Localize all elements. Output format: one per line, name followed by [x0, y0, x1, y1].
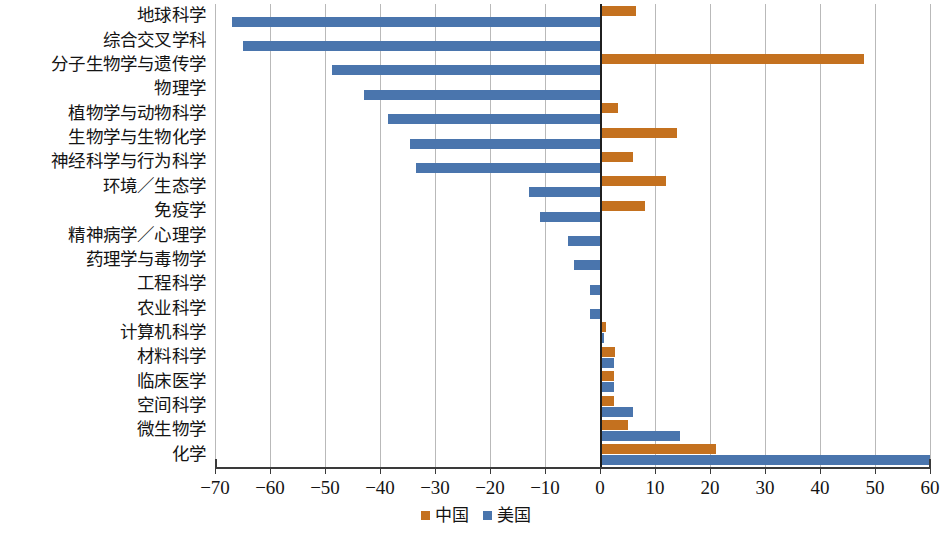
x-tick-label: 0 — [595, 477, 605, 499]
bar-row — [215, 199, 930, 223]
bar-row — [215, 296, 930, 320]
x-tick-mark — [215, 467, 216, 474]
legend-label: 中国 — [435, 507, 469, 524]
x-tick-label: 50 — [866, 477, 885, 499]
category-label: 工程科学 — [137, 275, 206, 293]
x-tick-label: −70 — [200, 477, 230, 499]
x-tick-label: −30 — [420, 477, 450, 499]
x-tick-label: 10 — [646, 477, 665, 499]
x-tick-mark — [820, 467, 821, 474]
category-label: 农业科学 — [137, 300, 206, 318]
bar-row — [215, 28, 930, 52]
x-tick-mark — [765, 467, 766, 474]
bar-row — [215, 150, 930, 174]
x-tick-mark — [875, 467, 876, 474]
bar-cn — [600, 103, 618, 113]
category-label: 微生物学 — [137, 421, 206, 439]
bar-us — [600, 382, 614, 392]
bar-us — [568, 236, 600, 246]
chart-legend: 中国美国 — [0, 507, 951, 524]
bar-row — [215, 394, 930, 418]
grid-line — [930, 4, 931, 467]
category-label: 化学 — [172, 446, 206, 464]
plot-area — [215, 4, 930, 467]
category-label: 神经科学与行为科学 — [51, 153, 206, 171]
x-tick-mark — [710, 467, 711, 474]
bar-row — [215, 443, 930, 467]
category-label: 材料科学 — [137, 348, 206, 366]
x-tick-mark — [270, 467, 271, 474]
bar-us — [364, 90, 601, 100]
category-label: 生物学与生物化学 — [68, 129, 206, 147]
bar-row — [215, 175, 930, 199]
x-tick-label: 60 — [921, 477, 940, 499]
category-label: 精神病学／心理学 — [68, 227, 206, 245]
bar-row — [215, 321, 930, 345]
horizontal-bar-chart: 地球科学综合交叉学科分子生物学与遗传学物理学植物学与动物科学生物学与生物化学神经… — [0, 0, 951, 533]
bar-row — [215, 370, 930, 394]
bar-us — [600, 455, 930, 465]
category-label: 植物学与动物科学 — [68, 105, 206, 123]
bar-cn — [600, 152, 633, 162]
bar-us — [600, 407, 633, 417]
x-tick-mark — [380, 467, 381, 474]
category-label: 药理学与毒物学 — [86, 251, 206, 269]
bar-row — [215, 77, 930, 101]
x-tick-label: −50 — [310, 477, 340, 499]
x-tick-mark — [600, 467, 601, 474]
legend-swatch-us — [483, 511, 492, 520]
x-tick-mark — [655, 467, 656, 474]
bar-us — [590, 309, 600, 319]
category-label: 免疫学 — [154, 202, 206, 220]
x-axis-right-cap — [929, 459, 931, 467]
x-axis-line — [215, 467, 931, 469]
x-tick-mark — [325, 467, 326, 474]
bar-us — [590, 285, 600, 295]
bar-us — [600, 358, 614, 368]
x-tick-mark — [490, 467, 491, 474]
bar-us — [574, 260, 600, 270]
bar-cn — [600, 371, 614, 381]
bar-row — [215, 272, 930, 296]
bar-cn — [600, 6, 636, 16]
bar-row — [215, 345, 930, 369]
x-tick-label: −60 — [255, 477, 285, 499]
bar-cn — [600, 201, 645, 211]
bar-us — [243, 41, 601, 51]
bar-us — [388, 114, 600, 124]
category-label: 临床医学 — [137, 373, 206, 391]
x-tick-label: 30 — [756, 477, 775, 499]
x-tick-mark — [930, 467, 931, 474]
bar-us — [232, 17, 601, 27]
category-label: 地球科学 — [137, 7, 206, 25]
bar-us — [410, 139, 600, 149]
x-tick-label: −10 — [530, 477, 560, 499]
x-tick-mark — [545, 467, 546, 474]
bar-row — [215, 101, 930, 125]
legend-item: 中国 — [421, 507, 469, 524]
category-axis-labels: 地球科学综合交叉学科分子生物学与遗传学物理学植物学与动物科学生物学与生物化学神经… — [0, 4, 206, 467]
bar-row — [215, 53, 930, 77]
bar-row — [215, 418, 930, 442]
legend-item: 美国 — [483, 507, 531, 524]
bar-cn — [600, 420, 628, 430]
bar-cn — [600, 128, 677, 138]
category-label: 综合交叉学科 — [103, 32, 206, 50]
x-tick-label: 20 — [701, 477, 720, 499]
category-label: 物理学 — [154, 80, 206, 98]
x-tick-label: −20 — [475, 477, 505, 499]
bar-us — [540, 212, 601, 222]
category-label: 空间科学 — [137, 397, 206, 415]
bar-cn — [600, 396, 614, 406]
bar-us — [416, 163, 600, 173]
bar-us — [332, 65, 600, 75]
bar-us — [600, 431, 680, 441]
bar-row — [215, 4, 930, 28]
category-label: 分子生物学与遗传学 — [51, 56, 206, 74]
x-tick-label: −40 — [365, 477, 395, 499]
category-label: 计算机科学 — [120, 324, 206, 342]
bar-row — [215, 126, 930, 150]
bar-cn — [600, 176, 666, 186]
zero-axis-line — [600, 4, 602, 467]
bar-cn — [600, 444, 716, 454]
